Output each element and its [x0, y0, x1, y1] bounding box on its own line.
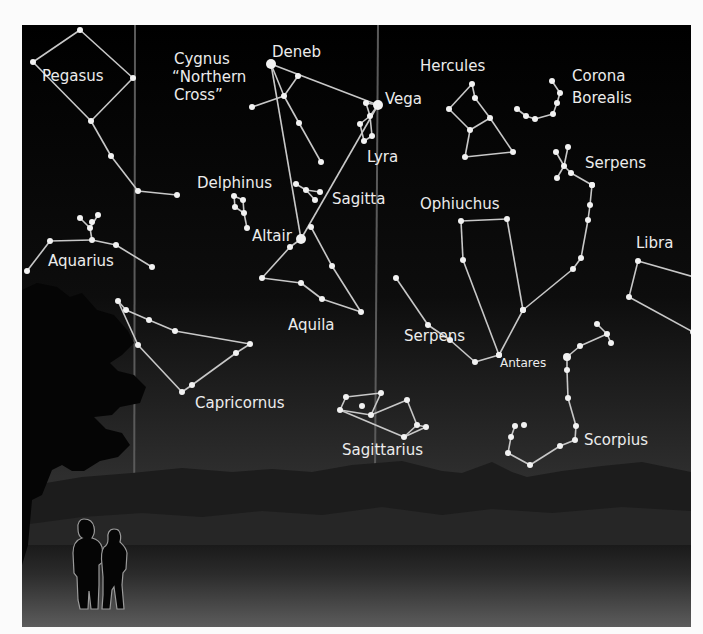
star-dot [172, 328, 178, 334]
star-dot [393, 275, 399, 281]
star-dot [414, 422, 420, 428]
star-dot [89, 237, 95, 243]
star-dot [594, 321, 600, 327]
label-ophiuchus: Ophiuchus [420, 195, 500, 213]
star-dot [295, 73, 301, 79]
star-dot [565, 395, 571, 401]
star-dot [568, 170, 574, 176]
star-dot [232, 204, 238, 210]
star-dot [549, 78, 555, 84]
label-aquarius: Aquarius [48, 252, 114, 270]
star-dot [564, 367, 570, 373]
star-dot [357, 121, 363, 127]
label-corona-2: Borealis [572, 89, 632, 107]
star-dot [523, 113, 529, 119]
star-dot [359, 403, 365, 409]
star-dot [241, 210, 247, 216]
star-dot [113, 242, 119, 248]
star-dot [363, 100, 369, 106]
label-hercules: Hercules [420, 57, 485, 75]
star-dot [487, 115, 493, 121]
star-dot [249, 104, 255, 110]
star-dot [343, 394, 349, 400]
label-delphinus: Delphinus [197, 174, 272, 192]
star-dot [550, 111, 556, 117]
star-dot [532, 116, 538, 122]
star-dot [557, 443, 563, 449]
star-dot [308, 224, 314, 230]
label-sagittarius: Sagittarius [342, 441, 423, 459]
star-dot [77, 27, 83, 33]
star-dot [337, 407, 343, 413]
star-dot [88, 118, 94, 124]
star-dot [24, 268, 30, 274]
star-dot [108, 153, 114, 159]
star-dot [578, 255, 584, 261]
star-dot [298, 280, 304, 286]
star-dot [149, 264, 155, 270]
star-dot [240, 197, 246, 203]
star-dot [317, 189, 323, 195]
label-antares: Antares [500, 356, 546, 370]
star-dot [47, 238, 53, 244]
star-dot [401, 434, 407, 440]
star-dot [146, 317, 152, 323]
label-sagitta: Sagitta [332, 190, 385, 208]
star-dot [296, 120, 302, 126]
label-cygnus-2: “Northern [172, 68, 246, 86]
star-dot [319, 296, 325, 302]
star-dot [561, 163, 567, 169]
star-dot [510, 149, 516, 155]
star-dot [423, 424, 429, 430]
star-dot [329, 263, 335, 269]
star-dot [95, 212, 101, 218]
night-sky-diagram: PegasusCygnus“NorthernCross”DenebVegaHer… [22, 25, 691, 627]
star-dot [231, 193, 237, 199]
star-dot [296, 234, 306, 244]
star-dot [587, 202, 593, 208]
star-dot [572, 437, 578, 443]
label-altair: Altair [252, 227, 293, 245]
star-dot [123, 307, 129, 313]
star-dot [554, 175, 560, 181]
star-dot [446, 106, 452, 112]
star-dot [512, 423, 518, 429]
sky-canvas: PegasusCygnus“NorthernCross”DenebVegaHer… [22, 25, 691, 627]
star-dot [303, 187, 309, 193]
star-dot [458, 218, 464, 224]
constellation-line [567, 370, 568, 398]
label-libra: Libra [636, 234, 673, 252]
star-dot [179, 389, 185, 395]
star-dot [469, 81, 475, 87]
star-dot [244, 225, 250, 231]
label-aquila: Aquila [288, 316, 335, 334]
star-dot [514, 106, 520, 112]
constellation-line [50, 240, 92, 241]
star-dot [472, 359, 478, 365]
star-dot [565, 144, 571, 150]
star-dot [368, 412, 374, 418]
star-dot [608, 340, 614, 346]
label-vega: Vega [385, 90, 422, 108]
star-dot [585, 217, 591, 223]
star-dot [247, 341, 253, 347]
star-dot [30, 59, 36, 65]
label-serpens-cauda: Serpens [404, 327, 465, 345]
star-dot [293, 181, 299, 187]
star-dot [281, 93, 287, 99]
star-dot [527, 462, 533, 468]
star-dot [135, 342, 141, 348]
label-lyra: Lyra [367, 148, 398, 166]
star-dot [504, 216, 510, 222]
label-scorpius: Scorpius [584, 431, 648, 449]
star-dot [521, 422, 527, 428]
star-dot [557, 90, 563, 96]
star-dot [130, 75, 136, 81]
star-dot [472, 95, 478, 101]
star-dot [570, 266, 576, 272]
star-dot [508, 434, 514, 440]
star-dot [312, 197, 318, 203]
star-dot [460, 257, 466, 263]
star-dot [635, 258, 641, 264]
star-dot [604, 331, 610, 337]
